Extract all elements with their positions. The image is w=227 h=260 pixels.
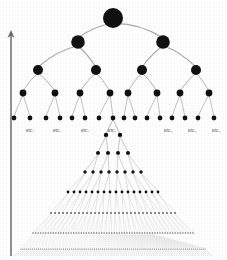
fan-edge [120, 136, 128, 152]
tree-node-level-4 [97, 116, 102, 121]
fan-edge [141, 173, 152, 191]
tree-node-level-4 [44, 116, 49, 121]
fan-node [78, 232, 80, 234]
tree-node-level-4 [170, 116, 175, 121]
fan-node [107, 170, 110, 173]
tree-node-level-4 [12, 116, 17, 121]
fan-skirt-line [14, 249, 21, 256]
fan-edge [53, 234, 54, 248]
tree-node-level-4 [145, 116, 150, 121]
fan-edge [67, 193, 80, 212]
edge-layer [14, 23, 214, 116]
fan-node [166, 212, 168, 214]
fan-node [86, 232, 88, 234]
fan-node [70, 212, 72, 214]
fan-skirt-line [129, 249, 130, 256]
fan-edge [38, 234, 43, 248]
fan-node [80, 232, 82, 234]
fan-node [109, 191, 112, 194]
fan-edge [118, 154, 125, 171]
fan-edge [33, 214, 51, 232]
fan-edge [86, 214, 91, 232]
fan-edge [117, 173, 122, 191]
tree-node-level-2 [137, 65, 147, 75]
tree-node-level-1 [71, 35, 85, 49]
fan-node [37, 232, 39, 234]
fan-node [73, 232, 75, 234]
fan-node [90, 212, 92, 214]
fan-node [82, 212, 84, 214]
tree-node-level-4 [122, 116, 127, 121]
fan-skirt-line [16, 249, 23, 256]
fan-node [32, 232, 34, 234]
tree-node-level-0 [103, 8, 123, 28]
fan-edge [106, 119, 113, 134]
fan-node [134, 232, 136, 234]
tree-edge [196, 73, 209, 91]
fan-edge [114, 234, 147, 248]
fan-edge [85, 154, 98, 171]
fan-edge [79, 214, 87, 232]
fan-edge [42, 234, 45, 248]
fan-node [83, 232, 85, 234]
fan-edge [79, 234, 93, 248]
fan-skirt-line [85, 249, 87, 256]
fan-node [113, 232, 115, 234]
fan-edge [141, 173, 158, 191]
fan-edge [87, 193, 92, 212]
fan-skirt-line [201, 249, 208, 256]
tree-edge [172, 95, 180, 117]
fan-node [83, 170, 86, 173]
tree-edge [78, 46, 96, 67]
fan-node [106, 212, 108, 214]
fan-skirt-line [168, 249, 172, 256]
tree-node-level-3 [52, 90, 59, 97]
fan-node [142, 212, 144, 214]
tree-edge [163, 46, 196, 67]
fan-edge [116, 193, 119, 212]
fan-edge [58, 234, 59, 248]
fan-edge [93, 154, 98, 171]
fan-edge [109, 173, 110, 191]
fan-node [185, 232, 187, 234]
fan-edge [69, 234, 78, 248]
fan-node [86, 212, 88, 214]
fan-edge [128, 193, 131, 212]
fan-skirt-line [143, 249, 145, 256]
fan-skirt-line [64, 249, 68, 256]
fan-edge [117, 154, 118, 171]
fan-edge [111, 214, 112, 232]
fan-node [167, 232, 169, 234]
fan-node [53, 232, 55, 234]
fan-skirt-line [104, 249, 105, 256]
fan-edge [106, 136, 108, 152]
fan-skirt-line [141, 249, 143, 256]
tree-edge [23, 73, 38, 91]
fan-node [141, 232, 143, 234]
tree-edge [128, 95, 135, 117]
fan-skirt-line [159, 249, 163, 256]
fan-node [58, 212, 60, 214]
fan-edge [110, 193, 111, 212]
node-layer [12, 8, 217, 120]
tree-node-level-4 [58, 116, 63, 121]
fan-node [102, 212, 104, 214]
tree-node-level-3 [154, 90, 161, 97]
fan-skirt-line [155, 249, 158, 256]
fan-skirt-line [51, 249, 56, 256]
fan-edge [91, 193, 98, 212]
fan-edge [31, 234, 38, 248]
fan-edge [155, 214, 165, 232]
fan-edge [146, 193, 159, 212]
fan-skirt-line [49, 249, 54, 256]
fan-node [159, 232, 161, 234]
fan-node [162, 232, 164, 234]
tree-node-level-4 [83, 116, 88, 121]
fan-skirt-line [106, 249, 107, 256]
fan-edge [58, 234, 61, 248]
fan-skirt-line [66, 249, 69, 256]
fan-skirt-line [68, 249, 71, 256]
fan-edge [89, 234, 106, 248]
fan-edge [61, 214, 71, 232]
tree-node-level-2 [33, 65, 43, 75]
